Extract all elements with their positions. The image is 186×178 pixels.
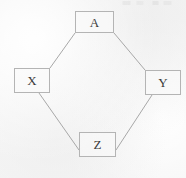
node-x[interactable]: X [14, 68, 50, 93]
edge-a-x [50, 33, 75, 68]
lattice-diagram-figure: A X Y Z [0, 0, 186, 178]
node-y[interactable]: Y [145, 70, 181, 95]
edge-a-y [114, 33, 145, 70]
node-x-label: X [27, 74, 37, 87]
node-z[interactable]: Z [79, 132, 116, 157]
edge-x-z [39, 93, 79, 150]
node-a[interactable]: A [75, 11, 114, 33]
node-y-label: Y [158, 76, 168, 89]
node-a-label: A [90, 15, 100, 28]
edge-y-z [116, 95, 152, 150]
node-z-label: Z [93, 138, 101, 151]
